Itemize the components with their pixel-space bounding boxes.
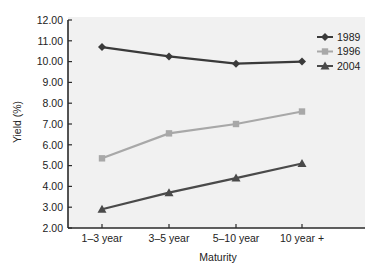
y-axis: 2.003.004.005.006.007.008.009.0010.0011.…: [37, 14, 72, 234]
square-marker-icon: [233, 121, 239, 127]
y-tick-label: 6.00: [43, 139, 64, 151]
x-tick-label: 5–10 year: [213, 232, 260, 244]
legend: 198919962004: [317, 31, 361, 72]
y-tick-label: 11.00: [38, 35, 64, 47]
y-tick-label: 12.00: [37, 14, 63, 26]
y-axis-label: Yield (%): [11, 101, 23, 143]
square-marker-icon: [166, 130, 172, 136]
square-marker-icon: [299, 108, 305, 114]
line-chart: 2.003.004.005.006.007.008.009.0010.0011.…: [0, 0, 380, 275]
legend-label: 2004: [337, 60, 361, 72]
x-axis-label: Maturity: [199, 251, 237, 263]
y-tick-label: 10.00: [37, 55, 63, 67]
x-tick-label: 10 year +: [280, 232, 324, 244]
x-tick-label: 3–5 year: [149, 232, 190, 244]
y-tick-label: 7.00: [43, 118, 64, 130]
y-tick-label: 5.00: [43, 159, 64, 171]
square-marker-icon: [322, 48, 328, 54]
legend-label: 1996: [337, 45, 361, 57]
y-tick-label: 9.00: [43, 76, 64, 88]
square-marker-icon: [99, 155, 105, 161]
y-tick-label: 3.00: [43, 201, 64, 213]
y-tick-label: 2.00: [43, 222, 64, 234]
y-tick-label: 8.00: [43, 97, 64, 109]
x-tick-label: 1–3 year: [82, 232, 123, 244]
legend-label: 1989: [337, 31, 361, 43]
y-tick-label: 4.00: [43, 180, 64, 192]
